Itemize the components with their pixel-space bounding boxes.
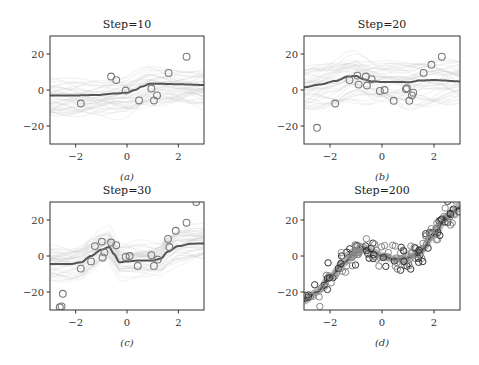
panel-b-step-20: −202−20020Step=20(b) (277, 18, 460, 182)
panel-title: Step=30 (103, 184, 152, 197)
x-tick-label: −2 (323, 317, 338, 328)
x-tick-label: 0 (124, 317, 130, 328)
x-tick-label: 0 (379, 151, 385, 162)
x-tick-label: 0 (124, 151, 130, 162)
y-tick-label: −20 (23, 121, 44, 132)
x-tick-label: 2 (175, 317, 181, 328)
panel-title: Step=20 (358, 18, 407, 31)
y-tick-label: 20 (285, 49, 298, 60)
panel-caption: (c) (120, 337, 134, 348)
x-tick-label: 2 (431, 317, 437, 328)
y-tick-label: −20 (277, 287, 298, 298)
panel-caption: (b) (375, 171, 389, 182)
y-tick-label: −20 (277, 121, 298, 132)
plot-area (50, 199, 204, 311)
plot-area (304, 51, 460, 131)
panel-c-step-30: −202−20020Step=30(c) (23, 184, 204, 348)
figure: −202−20020Step=10(a) −202−20020Step=20(b… (0, 0, 479, 365)
y-tick-label: 0 (38, 251, 44, 262)
x-tick-label: 0 (379, 317, 385, 328)
posterior-samples (50, 224, 204, 282)
panel-title: Step=10 (103, 18, 152, 31)
x-tick-label: −2 (323, 151, 338, 162)
panel-caption: (a) (120, 171, 134, 182)
y-tick-label: 0 (292, 251, 298, 262)
panel-a-step-10: −202−20020Step=10(a) (23, 18, 204, 182)
y-tick-label: −20 (23, 287, 44, 298)
plot-area (50, 53, 204, 120)
y-tick-label: 20 (285, 215, 298, 226)
panel-title: Step=200 (354, 184, 410, 197)
y-tick-label: 0 (292, 85, 298, 96)
x-tick-label: −2 (68, 151, 83, 162)
y-tick-label: 20 (31, 49, 44, 60)
plot-area (302, 194, 462, 309)
panel-d-step-200: −202−20020Step=200(d) (277, 184, 462, 348)
y-tick-label: 0 (38, 85, 44, 96)
x-tick-label: 2 (431, 151, 437, 162)
y-tick-label: 20 (31, 215, 44, 226)
x-tick-label: −2 (68, 317, 83, 328)
x-tick-label: 2 (175, 151, 181, 162)
panel-caption: (d) (375, 337, 389, 348)
